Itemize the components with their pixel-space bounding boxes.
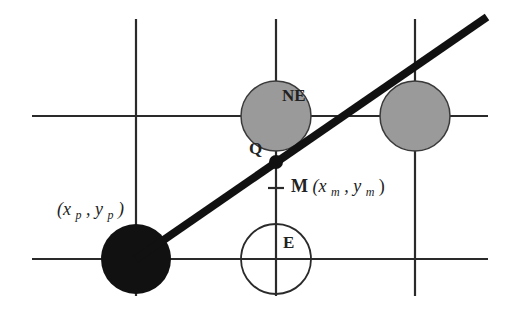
m-letter: M	[291, 176, 308, 196]
m-sub-x: m	[331, 185, 340, 199]
start-comma: , y	[86, 199, 103, 219]
m-coords-open: (x	[313, 176, 327, 197]
e-label: E	[283, 233, 294, 252]
m-sub-y: m	[366, 185, 375, 199]
start-open: (x	[57, 199, 71, 220]
start-sub-y: p	[106, 208, 113, 222]
start-close: )	[117, 199, 124, 220]
midpoint-diagram: NE E Q M (x m , y m ) (x p , y p )	[0, 0, 519, 313]
ne-label: NE	[282, 86, 306, 105]
next-pixel	[380, 81, 450, 151]
q-label: Q	[249, 139, 262, 158]
start-point-label: (x p , y p )	[57, 199, 124, 223]
m-comma: , y	[344, 176, 361, 196]
m-label: M (x m , y m )	[291, 176, 385, 200]
m-coords-close: )	[379, 176, 385, 197]
q-intersection-dot	[269, 155, 283, 169]
start-sub-x: p	[74, 208, 81, 222]
